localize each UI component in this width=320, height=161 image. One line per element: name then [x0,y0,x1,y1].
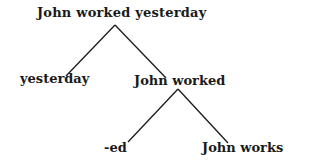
node-yesterday: yesterday [20,72,89,85]
node-ed: -ed [104,141,127,154]
edge-john-worked-ed [128,89,178,142]
edge-root-yesterday [66,25,115,76]
node-root: John worked yesterday [37,6,206,19]
node-john-works: John works [202,141,283,154]
edge-john-worked-john-works [178,89,228,143]
edge-root-john-worked [115,25,166,78]
node-john-worked: John worked [134,74,225,87]
